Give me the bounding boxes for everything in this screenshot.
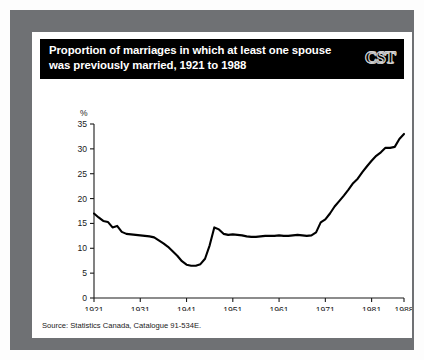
- y-tick-label: 15: [77, 218, 87, 228]
- x-tick-label: 1951: [223, 305, 242, 311]
- y-tick-label: 10: [77, 243, 87, 253]
- source-note: Source: Statistics Canada, Catalogue 91-…: [42, 321, 201, 330]
- y-tick-label: 35: [77, 119, 87, 129]
- figure-frame: Proportion of marriages in which at leas…: [10, 10, 414, 350]
- y-axis: 05101520253035: [77, 119, 94, 303]
- y-axis-unit-label: %: [80, 108, 88, 118]
- line-chart: 05101520253035 1921193119411951196119711…: [32, 79, 412, 311]
- x-tick-label: 1941: [177, 305, 196, 311]
- figure-card: Proportion of marriages in which at leas…: [32, 32, 412, 338]
- chart-title-bar: Proportion of marriages in which at leas…: [40, 39, 404, 79]
- x-tick-label: 1961: [270, 305, 289, 311]
- data-series-line: [94, 134, 404, 266]
- x-tick-label: 1981: [362, 305, 381, 311]
- x-tick-label: 1931: [131, 305, 150, 311]
- x-tick-label: 1988: [394, 305, 412, 311]
- chart-plot-area: 05101520253035 1921193119411951196119711…: [32, 79, 412, 311]
- y-tick-label: 25: [77, 169, 87, 179]
- y-tick-label: 30: [77, 144, 87, 154]
- x-tick-label: 1921: [84, 305, 103, 311]
- y-tick-label: 20: [77, 194, 87, 204]
- y-tick-label: 0: [82, 293, 87, 303]
- x-tick-label: 1971: [316, 305, 335, 311]
- x-axis: 19211931194119511961197119811988: [84, 298, 412, 311]
- chart-title: Proportion of marriages in which at leas…: [49, 43, 339, 72]
- page-root: Proportion of marriages in which at leas…: [0, 0, 424, 360]
- cst-logo: CST: [365, 48, 395, 68]
- y-tick-label: 5: [82, 268, 87, 278]
